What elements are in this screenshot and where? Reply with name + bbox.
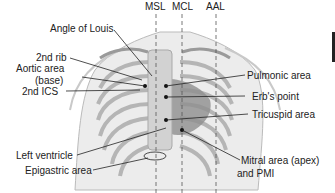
mcl-label: MCL (172, 1, 193, 12)
angle-of-louis-label: Angle of Louis (50, 23, 113, 34)
aortic-area-label: Aortic area (16, 63, 64, 74)
left-ventricle-label: Left ventricle (16, 150, 73, 161)
aortic-area-base-label: (base) (35, 75, 63, 86)
erbs-point-label: Erb's point (252, 91, 299, 102)
second-ics-label: 2nd ICS (22, 86, 58, 97)
mitral-area-label: Mitral area (apex) (241, 155, 319, 166)
pmi-label: and PMI (237, 168, 274, 179)
msl-label: MSL (145, 1, 166, 12)
sternum (148, 50, 172, 150)
epigastric-area-label: Epigastric area (25, 165, 92, 176)
aal-label: AAL (206, 1, 225, 12)
second-rib-label: 2nd rib (36, 52, 67, 63)
pulmonic-area-label: Pulmonic area (247, 70, 311, 81)
tricuspid-area-label: Tricuspid area (252, 109, 315, 120)
